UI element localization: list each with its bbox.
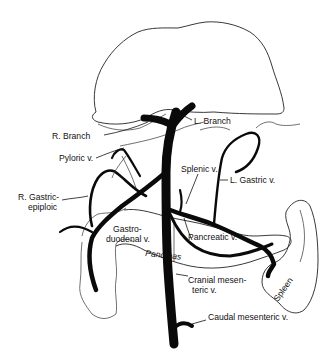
stomach-upper-line-2: [200, 127, 230, 130]
label-pyloric: Pyloric v.: [59, 153, 93, 163]
caudal-mesenteric-vein: [174, 323, 192, 328]
stomach-upper-line: [120, 122, 204, 146]
spleen-hilum-line: [300, 210, 305, 262]
portal-vein-diagram: R. Branch L. Branch Pyloric v. Splenic v…: [0, 0, 334, 362]
label-gastro-line1: Gastro-: [113, 224, 142, 234]
portal-vein-trunk: [166, 112, 176, 344]
label-spleen: Spleen: [271, 275, 295, 303]
label-r-branch: R. Branch: [52, 131, 90, 141]
pancreatic-vein: [180, 190, 182, 212]
label-cranial-line1: Cranial mesen-: [188, 275, 246, 285]
right-branch-vein: [144, 118, 170, 124]
splenic-vein: [170, 210, 274, 276]
label-cranial-line2: teric v.: [192, 285, 217, 295]
leader-cranial: [176, 274, 188, 276]
label-gastro-line2: duodenal v.: [106, 234, 150, 244]
label-caudal: Caudal mesenteric v.: [208, 312, 288, 322]
label-l-branch: L. Branch: [194, 116, 231, 126]
leader-r-gastric: [62, 196, 88, 200]
label-splenic: Splenic v.: [181, 164, 218, 174]
r-gastroepiploic-vein: [90, 171, 146, 226]
label-pancreas: Pancreas: [145, 248, 183, 262]
label-r-gastric-line2: epiploic: [28, 202, 58, 212]
leader-splenic: [186, 174, 198, 204]
leader-caudal: [192, 320, 206, 324]
label-r-gastric-line1: R. Gastric-: [18, 192, 59, 202]
label-l-gastric: L. Gastric v.: [230, 175, 275, 185]
label-pancreatic: Pancreatic v.: [188, 232, 237, 242]
leader-pyloric: [96, 148, 124, 158]
stomach-right-curve: [256, 122, 300, 128]
r-gastroepiploic-branch: [60, 227, 92, 232]
leader-l-branch: [184, 116, 192, 120]
